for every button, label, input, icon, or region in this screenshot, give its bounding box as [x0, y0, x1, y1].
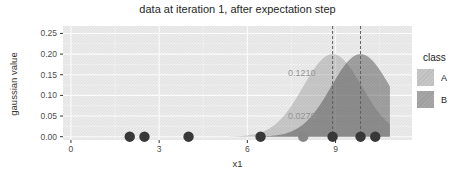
probability-annotation: 0.1210: [288, 68, 316, 78]
y-tick-label: 0.25: [40, 28, 57, 38]
y-tick-label: 0.20: [40, 49, 57, 59]
legend-label-class-a: A: [441, 73, 447, 83]
data-point: [255, 131, 265, 141]
x-tick-label: 0: [69, 144, 74, 154]
panel-texture: [63, 26, 412, 140]
legend-item-class-a: A: [417, 69, 467, 86]
data-point: [355, 131, 365, 141]
y-tick-label: 0.00: [40, 132, 57, 142]
data-point: [370, 131, 380, 141]
probability-annotation: 0.0270: [288, 111, 316, 121]
legend-swatch-class-a: [417, 69, 434, 86]
legend-title: class: [423, 52, 467, 63]
data-point: [183, 131, 193, 141]
y-tick-label: 0.05: [40, 111, 57, 121]
y-tick-label: 0.15: [40, 70, 57, 80]
legend-item-class-b: B: [417, 91, 467, 108]
data-point: [125, 131, 135, 141]
plot-canvas: 0.12100.027003690.000.050.100.150.200.25: [0, 0, 469, 177]
y-tick-label: 0.10: [40, 90, 57, 100]
x-tick-label: 9: [333, 144, 338, 154]
legend-label-class-b: B: [441, 95, 447, 105]
chart-title: data at iteration 1, after expectation s…: [63, 3, 412, 15]
x-tick-label: 3: [157, 144, 162, 154]
data-point: [298, 131, 308, 141]
y-axis-title: gaussian value: [8, 52, 19, 115]
data-point: [327, 131, 337, 141]
x-tick-label: 6: [245, 144, 250, 154]
em-gaussian-chart: 0.12100.027003690.000.050.100.150.200.25…: [0, 0, 469, 177]
x-axis-title: x1: [63, 158, 412, 169]
data-point: [139, 131, 149, 141]
legend: class A B: [417, 52, 467, 113]
legend-swatch-class-b: [417, 91, 434, 108]
